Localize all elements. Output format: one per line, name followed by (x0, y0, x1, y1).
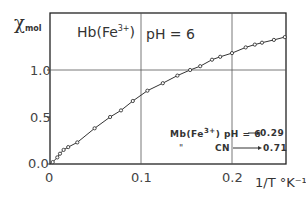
chart-title-condition: pH = 6 (146, 26, 195, 42)
x-tick-label: 0.1 (131, 170, 152, 185)
annotation-ditto: " (179, 143, 184, 153)
y-axis-label: χmol (14, 12, 42, 33)
x-axis-label: 1/T °K⁻¹ (255, 175, 306, 190)
y-tick-label: 0.5 (30, 110, 51, 125)
y-tick-label: 1.0 (30, 63, 51, 78)
chart-title-protein: Hb(Fe3+) (77, 24, 135, 40)
annotation-sup: 3+ (204, 127, 216, 135)
annotation-text: Mb(Fe (170, 129, 204, 139)
title-close-paren: ) (130, 24, 135, 40)
annotation-text: ) pH = 6 (216, 129, 261, 139)
data-markers (51, 36, 286, 164)
data-line (50, 37, 285, 164)
title-protein-text: Hb(Fe (77, 24, 118, 40)
annotation-value: 0.29 (260, 128, 284, 138)
annotation-value: 0.71 (263, 143, 287, 153)
annotation-mb: Mb(Fe3+) pH = 6 (170, 127, 261, 139)
y-label-symbol: χ (14, 12, 25, 33)
x-tick-label: 0.2 (222, 170, 243, 185)
x-tick-label: 0 (45, 170, 53, 185)
title-superscript: 3+ (118, 24, 130, 33)
y-tick-label: 0.0 (28, 156, 49, 171)
y-label-subscript: mol (25, 24, 42, 33)
annotation-cn: CN (215, 143, 230, 153)
